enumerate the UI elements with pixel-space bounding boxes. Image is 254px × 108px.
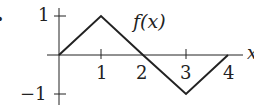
problem-marker: . xyxy=(0,2,4,24)
y-tick-label-neg1: −1 xyxy=(20,85,47,103)
function-label: f(x) xyxy=(133,12,166,31)
y-tick-label-1: 1 xyxy=(38,6,49,24)
x-tick-label-2: 2 xyxy=(136,64,147,82)
x-tick-label-3: 3 xyxy=(180,64,191,82)
x-tick-label-1: 1 xyxy=(96,64,107,82)
x-axis-label: x xyxy=(247,44,254,62)
chart: . 1 −1 1 2 3 4 f(x) x xyxy=(0,0,254,108)
x-tick-label-4: 4 xyxy=(223,64,234,82)
